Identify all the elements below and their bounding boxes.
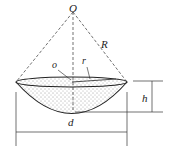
segment-diagram: O R o r h d	[0, 0, 172, 154]
label-height: h	[142, 92, 148, 104]
label-diameter: d	[68, 116, 74, 128]
label-apex: O	[69, 2, 77, 14]
label-sphere-radius: R	[100, 38, 108, 50]
bowl	[16, 77, 127, 114]
label-base-center: o	[52, 59, 57, 70]
label-base-radius: r	[82, 55, 86, 66]
